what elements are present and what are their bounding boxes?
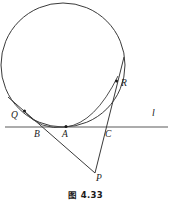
point-label-q: Q [11, 111, 18, 121]
secant-line-pq [8, 97, 95, 173]
point-q [23, 110, 26, 113]
point-a [65, 125, 68, 128]
circle-shape [1, 3, 125, 127]
geometry-figure: Q B A C R P l 图 4.33 [0, 0, 171, 206]
line-label-l: l [152, 108, 155, 118]
point-label-b: B [34, 130, 40, 140]
point-r [115, 80, 118, 83]
point-label-p: P [96, 174, 102, 184]
point-label-a: A [62, 130, 68, 140]
point-label-r: R [121, 79, 127, 89]
figure-caption: 图 4.33 [0, 188, 171, 200]
arc-qa [24, 76, 118, 128]
point-label-c: C [105, 130, 111, 140]
geometry-diagram [0, 0, 171, 206]
